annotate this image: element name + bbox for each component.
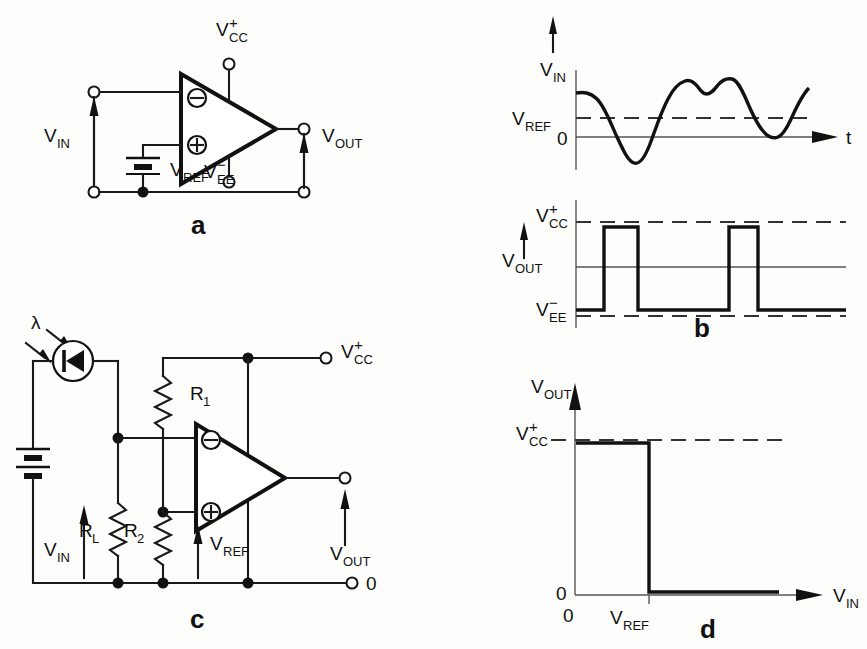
label-vout-axis-sub-b: OUT xyxy=(515,261,543,276)
label-vin-axis-d: V xyxy=(833,585,846,606)
label-vout-c: V xyxy=(330,543,343,564)
vout-arrow-a xyxy=(300,133,309,186)
label-vin-a: V xyxy=(44,125,57,146)
label-vcc-sub-a: CC xyxy=(229,30,248,45)
label-vref-b: V xyxy=(512,108,525,129)
label-vin-sub-a: IN xyxy=(57,136,70,151)
label-vcc-d: V xyxy=(516,423,529,444)
label-lambda-c: λ xyxy=(31,312,41,333)
label-vout-axis-sub-d: OUT xyxy=(544,387,572,402)
output-y-axis-arrow xyxy=(520,222,528,258)
label-r2-c: R xyxy=(124,520,138,541)
vin-arrow-c xyxy=(80,505,89,578)
terminal-vout-c xyxy=(340,473,351,484)
label-vcc-sub-b: CC xyxy=(549,216,568,231)
output-square-wave xyxy=(576,227,846,310)
label-r1-c: R xyxy=(190,383,204,404)
terminal-vin-bottom-a xyxy=(89,187,100,198)
resistor-r2-c xyxy=(155,512,171,565)
label-vee-sub-b: EE xyxy=(549,310,567,325)
label-vcc-sup-b: + xyxy=(549,200,558,217)
panel-label-c: c xyxy=(190,604,204,634)
label-vout-sub-c: OUT xyxy=(343,554,371,569)
label-yzero-d: 0 xyxy=(556,583,567,604)
label-vin-axis-sub-b: IN xyxy=(553,70,566,85)
panel-b-output-chart: V CC + V OUT V EE − b xyxy=(502,200,846,343)
terminal-ground-c xyxy=(347,578,358,589)
input-waveform-curve xyxy=(576,79,809,164)
label-vcc-sup-d: + xyxy=(529,418,538,435)
label-vcc-sup-a: + xyxy=(229,14,238,31)
battery-vin-c xyxy=(16,449,50,476)
label-r2-sub-c: 2 xyxy=(137,531,144,546)
input-y-axis-arrow xyxy=(549,16,557,52)
label-vcc-a: V xyxy=(216,19,229,40)
photodiode-c xyxy=(53,341,93,381)
label-vin-c: V xyxy=(44,539,57,560)
label-vref-sub-a: REF xyxy=(183,170,209,185)
label-r1-sub-c: 1 xyxy=(203,394,210,409)
panel-c-circuit: λ 0 xyxy=(16,312,377,634)
label-t-axis-b: t xyxy=(846,127,852,148)
label-vref-sub-b: REF xyxy=(525,119,551,134)
label-xzero-d: 0 xyxy=(563,605,574,626)
label-zero-b: 0 xyxy=(557,128,568,149)
panel-label-a: a xyxy=(191,210,206,240)
panel-label-d: d xyxy=(700,614,716,644)
resistor-r1-c xyxy=(155,376,171,429)
label-vcc-sup-c: + xyxy=(354,336,363,353)
label-vee-sub-a: EE xyxy=(217,172,235,187)
label-vee-sup-b: − xyxy=(549,294,558,311)
terminal-vcc-c xyxy=(321,353,332,364)
panel-label-b: b xyxy=(694,313,710,343)
label-vcc-c: V xyxy=(341,341,354,362)
panel-b-input-chart: V IN V REF 0 t xyxy=(512,16,852,170)
label-vref-d: V xyxy=(610,607,623,628)
label-vout-axis-b: V xyxy=(502,250,515,271)
label-vin-axis-b: V xyxy=(540,59,553,80)
junction-vcc-ground-c xyxy=(243,578,254,589)
label-vee-sup-a: − xyxy=(217,156,226,173)
label-vee-b: V xyxy=(536,299,549,320)
panel-d-chart: V OUT V CC + 0 0 V REF V IN d xyxy=(516,376,859,644)
transfer-curve xyxy=(576,443,779,592)
label-vin-axis-sub-d: IN xyxy=(846,596,859,611)
label-rl-c: R xyxy=(79,520,93,541)
label-vref-sub-d: REF xyxy=(623,618,649,633)
label-vout-axis-d: V xyxy=(531,376,544,397)
terminal-vcc-a xyxy=(224,59,235,70)
label-vcc-b: V xyxy=(536,205,549,226)
vout-arrow-c xyxy=(341,489,350,545)
junction-r2-ground-c xyxy=(158,578,169,589)
junction-rl-ground-c xyxy=(113,578,124,589)
label-vout-a: V xyxy=(322,125,335,146)
label-vout-sub-a: OUT xyxy=(335,136,363,151)
vin-arrow-a xyxy=(90,96,99,185)
label-vin-sub-c: IN xyxy=(57,550,70,565)
terminal-vout-top-a xyxy=(299,124,310,135)
label-vcc-sub-c: CC xyxy=(354,352,373,367)
transfer-x-axis-arrowhead xyxy=(796,589,823,601)
label-vref-a: V xyxy=(170,159,183,180)
panel-a-circuit: V IN V OUT V CC + V EE − V REF a xyxy=(44,14,363,240)
label-ground-c: 0 xyxy=(366,573,377,594)
figure-canvas: V IN V OUT V CC + V EE − V REF a λ xyxy=(0,0,867,649)
junction-ground-a xyxy=(138,187,149,198)
terminal-vin-top-a xyxy=(89,87,100,98)
battery-vref-a xyxy=(126,158,160,174)
t-axis-arrowhead xyxy=(812,131,838,143)
label-vref-sub-c: REF xyxy=(223,544,249,559)
label-vcc-sub-d: CC xyxy=(529,434,548,449)
label-vref-c: V xyxy=(210,533,223,554)
label-rl-sub-c: L xyxy=(92,531,99,546)
